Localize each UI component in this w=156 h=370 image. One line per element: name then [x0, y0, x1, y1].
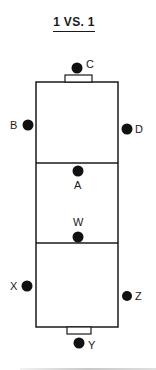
player-a: A: [73, 166, 84, 192]
player-x-label: X: [10, 280, 18, 292]
player-a-label: A: [74, 179, 82, 191]
player-c: C: [72, 58, 95, 74]
player-y: Y: [74, 338, 97, 352]
player-z: Z: [122, 290, 142, 302]
player-b: B: [10, 119, 34, 131]
player-c-label: C: [86, 58, 94, 70]
player-z-label: Z: [135, 290, 142, 302]
top-goal: [65, 75, 92, 82]
player-d-dot: [122, 124, 133, 135]
player-w-label: W: [73, 216, 84, 228]
player-d: D: [122, 123, 144, 135]
player-y-dot: [74, 338, 85, 349]
field-outline: [36, 82, 118, 327]
field-diagram: C B D A W X Z Y: [0, 0, 156, 370]
player-w: W: [73, 216, 85, 243]
player-y-label: Y: [88, 339, 96, 351]
player-d-label: D: [135, 123, 143, 135]
player-x-dot: [22, 281, 33, 292]
player-c-dot: [72, 63, 83, 74]
player-x: X: [10, 280, 33, 292]
player-b-dot: [23, 120, 34, 131]
player-z-dot: [122, 291, 132, 301]
bottom-goal: [67, 327, 91, 334]
player-a-dot: [73, 166, 84, 177]
player-b-label: B: [10, 119, 17, 131]
player-w-dot: [73, 232, 84, 243]
